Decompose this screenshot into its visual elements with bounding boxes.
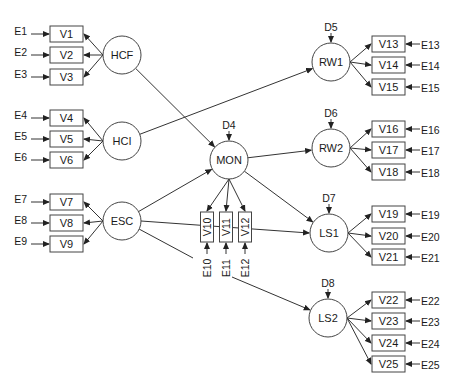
loading-arrow: [347, 318, 371, 364]
loading-arrow: [347, 318, 371, 321]
structural-path-esc-ls2: [232, 277, 310, 310]
latent-label-mon: MON: [216, 154, 242, 166]
error-e20: E20: [421, 231, 440, 243]
path-layer: [31, 33, 420, 364]
error-e23: E23: [421, 316, 440, 328]
latent-label-rw1: RW1: [319, 56, 343, 68]
error-e10: E10: [201, 259, 213, 278]
error-e19: E19: [421, 209, 440, 221]
disturbance-d4: D4: [222, 119, 236, 131]
indicator-label-v7: V7: [60, 196, 73, 208]
error-e1: E1: [14, 25, 27, 37]
structural-path-esc-ls2-seg1: [139, 229, 193, 258]
indicator-label-v11: V11: [220, 218, 232, 236]
indicator-label-v6: V6: [60, 154, 73, 166]
loading-arrow: [350, 148, 371, 150]
structural-path-mon-rw2: [248, 150, 311, 158]
indicator-label-v2: V2: [60, 49, 73, 61]
indicator-label-v4: V4: [60, 112, 73, 124]
loading-arrow: [347, 318, 371, 343]
loading-arrow: [348, 214, 371, 233]
error-e14: E14: [421, 60, 440, 72]
loading-arrow: [350, 44, 371, 62]
loading-arrow: [350, 129, 371, 148]
latent-label-ls1: LS1: [319, 227, 339, 239]
error-e6: E6: [14, 151, 27, 163]
indicator-label-v3: V3: [60, 71, 73, 83]
structural-path-mon-ls1: [244, 171, 312, 222]
indicator-label-v16: V16: [379, 123, 399, 135]
error-e3: E3: [14, 68, 27, 80]
indicator-label-v12: V12: [239, 218, 251, 237]
error-e4: E4: [14, 109, 27, 121]
error-e24: E24: [421, 338, 440, 350]
error-e22: E22: [421, 295, 440, 307]
latent-label-rw2: RW2: [319, 142, 343, 154]
indicator-label-v14: V14: [379, 59, 399, 71]
indicator-label-v25: V25: [379, 358, 399, 370]
loading-arrow: [347, 300, 371, 318]
error-e5: E5: [14, 130, 27, 142]
error-e17: E17: [421, 145, 440, 157]
indicator-label-v8: V8: [60, 217, 73, 229]
latent-label-esc: ESC: [111, 215, 134, 227]
structural-path-esc-mon: [139, 169, 212, 211]
indicator-label-v15: V15: [379, 81, 399, 93]
error-e15: E15: [421, 82, 440, 94]
indicator-label-v9: V9: [60, 238, 73, 250]
loading-arrow: [84, 221, 103, 244]
indicator-label-v10: V10: [201, 218, 213, 237]
error-e25: E25: [421, 359, 440, 371]
disturbance-d5: D5: [324, 21, 338, 33]
error-e12: E12: [239, 259, 251, 278]
loading-arrow: [207, 179, 229, 211]
loading-arrow: [84, 139, 103, 141]
indicator-label-v23: V23: [379, 315, 399, 327]
indicator-label-v18: V18: [379, 166, 399, 178]
indicator-label-v19: V19: [379, 208, 399, 220]
error-e7: E7: [14, 193, 27, 205]
indicator-label-v1: V1: [60, 28, 73, 40]
error-e16: E16: [421, 124, 440, 136]
latent-label-hcf: HCF: [111, 49, 134, 61]
structural-path-hcf-mon: [136, 68, 215, 146]
indicator-label-v20: V20: [379, 230, 399, 242]
sem-diagram: HCFHCIESCMOND4RW1D5RW2D6LS1D7LS2D8V1E1V2…: [0, 0, 458, 390]
error-e2: E2: [14, 46, 27, 58]
loading-arrow: [84, 202, 103, 221]
indicator-label-v24: V24: [379, 337, 399, 349]
error-e18: E18: [421, 167, 440, 179]
error-e11: E11: [220, 259, 232, 277]
error-e8: E8: [14, 214, 27, 226]
loading-arrow: [84, 34, 103, 55]
loading-arrow: [226, 179, 229, 211]
indicator-label-v5: V5: [60, 133, 73, 145]
loading-arrow: [84, 221, 103, 223]
indicator-label-v13: V13: [379, 38, 399, 50]
loading-arrow: [84, 141, 103, 160]
indicator-label-v21: V21: [379, 251, 399, 263]
indicator-label-v22: V22: [379, 294, 399, 306]
disturbance-d6: D6: [324, 107, 338, 119]
error-e21: E21: [421, 252, 440, 264]
latent-label-hci: HCI: [113, 135, 132, 147]
loading-arrow: [229, 179, 245, 211]
loading-arrow: [348, 233, 371, 257]
latent-label-ls2: LS2: [318, 312, 338, 324]
error-e9: E9: [14, 235, 27, 247]
loading-arrow: [84, 55, 103, 77]
error-e13: E13: [421, 39, 440, 51]
loading-arrow: [350, 62, 371, 87]
loading-arrow: [350, 148, 371, 172]
disturbance-d8: D8: [321, 277, 335, 289]
disturbance-d7: D7: [322, 192, 336, 204]
indicator-label-v17: V17: [379, 144, 399, 156]
loading-arrow: [350, 62, 371, 65]
loading-arrow: [84, 118, 103, 141]
loading-arrow: [348, 233, 371, 236]
